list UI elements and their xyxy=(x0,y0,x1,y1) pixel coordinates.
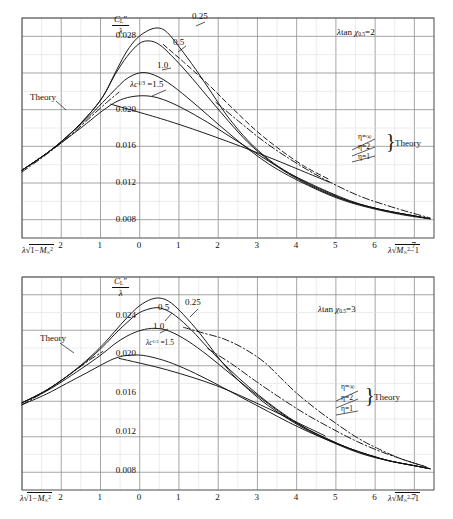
x-tick-lower-1: 1 xyxy=(97,493,102,502)
curve-label-lower-15: λc1/3 =1.5 xyxy=(146,339,174,347)
curve-label-upper-10: 1.0 xyxy=(157,61,168,70)
condition-value-lower: =3 xyxy=(346,304,356,314)
theory-label-lower-right: Theory xyxy=(374,393,400,402)
curve-label-upper-025: 0.25 xyxy=(192,12,208,21)
chart-lower: CL″ λ 0.024 0.020 0.016 0.012 0.008 λtan… xyxy=(0,265,453,519)
lamc-val-upper: =1.5 xyxy=(145,79,164,89)
curve-label-upper-05: 0.5 xyxy=(173,38,184,47)
x-tick-lower-6: 4 xyxy=(294,493,299,502)
y-tick-lower-0: 0.024 xyxy=(104,311,136,320)
lamc-base-upper: λc xyxy=(130,79,138,89)
curve-label-lower-025: 0.25 xyxy=(185,298,201,307)
y-axis-label-lower: CL″ λ xyxy=(112,276,129,298)
x-tick-upper-0: 2 xyxy=(58,241,63,250)
y-tick-upper-4: 0.008 xyxy=(104,215,136,224)
y-tick-upper-0: 0.028 xyxy=(104,31,136,40)
y-tick-lower-4: 0.008 xyxy=(104,466,136,475)
x-tick-lower-2: 0 xyxy=(137,493,142,502)
curve-label-lower-10: 1.0 xyxy=(153,322,164,331)
x-tick-lower-0: 2 xyxy=(58,493,63,502)
x-tick-upper-3: 1 xyxy=(176,241,181,250)
condition-label-lower: λtan χ0.5=3 xyxy=(318,305,356,315)
theory-brace-lower: } xyxy=(365,388,375,402)
curve-label-lower-05: 0.5 xyxy=(158,303,169,312)
lamc-exp-upper: 1/3 xyxy=(138,80,145,86)
y-tick-upper-3: 0.012 xyxy=(104,178,136,187)
y-tick-lower-3: 0.012 xyxy=(104,427,136,436)
x-tick-lower-3: 1 xyxy=(176,493,181,502)
x-axis-label-lower-left: λ√1−M∞2 xyxy=(20,494,52,504)
x-tick-upper-4: 2 xyxy=(215,241,220,250)
eta-label-lower-1: η=1 xyxy=(341,405,353,413)
y-tick-upper-1: 0.020 xyxy=(104,105,136,114)
eta-label-upper-1: η=1 xyxy=(358,153,370,161)
x-tick-upper-2: 0 xyxy=(137,241,142,250)
x-tick-lower-5: 3 xyxy=(254,493,259,502)
x-tick-upper-1: 1 xyxy=(97,241,102,250)
condition-label-upper: λtan χ0.5=2 xyxy=(337,28,375,38)
x-tick-lower-4: 2 xyxy=(215,493,220,502)
curve-label-upper-15: λc1/3 =1.5 xyxy=(130,80,164,89)
x-tick-lower-7: 5 xyxy=(333,493,338,502)
x-axis-label-upper-left: λ√1−M∞2 xyxy=(22,246,54,256)
chart-upper: CL″ λ 0.028 0.020 0.016 0.012 0.008 λtan… xyxy=(0,0,453,265)
x-tick-upper-5: 3 xyxy=(254,241,259,250)
eta-label-upper-2: η=2 xyxy=(358,143,370,151)
theory-label-lower-left: Theory xyxy=(40,334,66,343)
eta-label-upper-inf: η=∞ xyxy=(358,133,372,141)
eta-label-lower-2: η=2 xyxy=(341,394,353,402)
y-tick-upper-2: 0.016 xyxy=(104,141,136,150)
y-tick-lower-2: 0.016 xyxy=(104,388,136,397)
x-tick-upper-6: 4 xyxy=(294,241,299,250)
theory-brace-upper: } xyxy=(386,134,396,148)
x-tick-lower-8: 6 xyxy=(372,493,377,502)
condition-value-upper: =2 xyxy=(365,27,375,37)
figure-page: CL″ λ 0.028 0.020 0.016 0.012 0.008 λtan… xyxy=(0,0,453,519)
x-tick-upper-8: 6 xyxy=(372,241,377,250)
theory-label-upper-left: Theory xyxy=(30,93,56,102)
x-tick-upper-7: 5 xyxy=(333,241,338,250)
theory-label-upper-right: Theory xyxy=(395,139,421,148)
eta-label-lower-inf: η=∞ xyxy=(341,383,355,391)
y-tick-lower-1: 0.020 xyxy=(104,349,136,358)
x-tick-upper-9: 7 xyxy=(411,241,416,250)
x-tick-lower-9: 7 xyxy=(411,493,416,502)
